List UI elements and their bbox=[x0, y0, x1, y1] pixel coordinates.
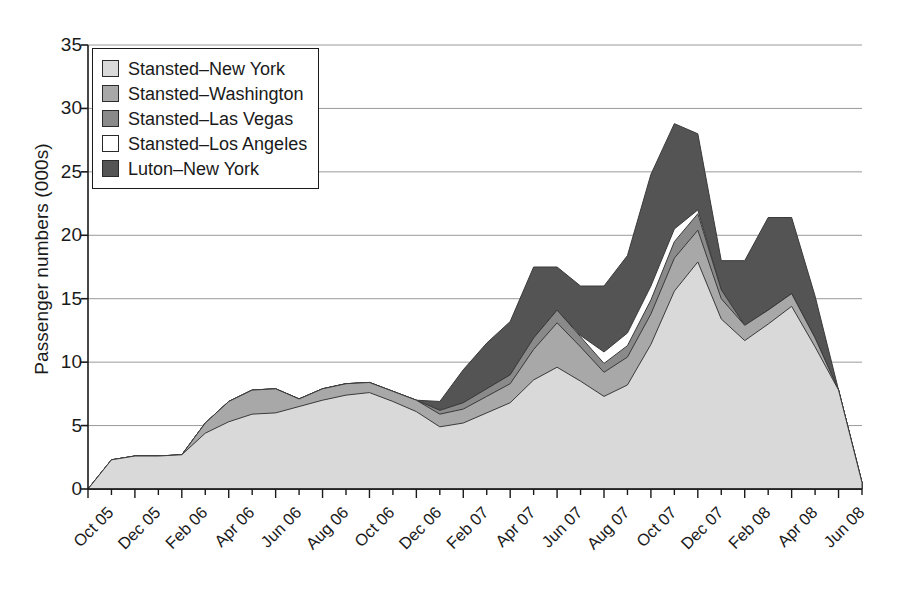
legend-item: Stansted–New York bbox=[102, 56, 307, 81]
legend-item-label: Luton–New York bbox=[128, 160, 259, 178]
y-tick-label: 5 bbox=[48, 416, 82, 435]
stacked-area-chart: Passenger numbers (000s) 05101520253035 … bbox=[0, 0, 898, 589]
legend-item: Stansted–Las Vegas bbox=[102, 106, 307, 131]
legend-item-label: Stansted–Las Vegas bbox=[128, 110, 293, 128]
legend-item-label: Stansted–New York bbox=[128, 60, 285, 78]
legend-swatch-icon bbox=[102, 135, 119, 152]
legend-swatch-icon bbox=[102, 85, 119, 102]
y-tick-label: 30 bbox=[48, 98, 82, 117]
legend-item: Stansted–Los Angeles bbox=[102, 131, 307, 156]
y-tick-label: 35 bbox=[48, 35, 82, 54]
legend-item: Stansted–Washington bbox=[102, 81, 307, 106]
x-axis-ticks bbox=[88, 489, 862, 498]
legend-item-label: Stansted–Washington bbox=[128, 85, 303, 103]
y-axis-ticks bbox=[81, 45, 88, 489]
legend-swatch-icon bbox=[102, 110, 119, 127]
y-tick-label: 20 bbox=[48, 225, 82, 244]
y-tick-label: 25 bbox=[48, 162, 82, 181]
legend: Stansted–New YorkStansted–WashingtonStan… bbox=[92, 48, 319, 189]
legend-item: Luton–New York bbox=[102, 156, 307, 181]
legend-swatch-icon bbox=[102, 60, 119, 77]
y-tick-label: 0 bbox=[48, 479, 82, 498]
y-tick-label: 15 bbox=[48, 289, 82, 308]
legend-swatch-icon bbox=[102, 160, 119, 177]
legend-item-label: Stansted–Los Angeles bbox=[128, 135, 307, 153]
y-tick-label: 10 bbox=[48, 352, 82, 371]
